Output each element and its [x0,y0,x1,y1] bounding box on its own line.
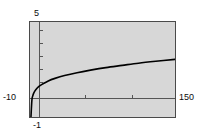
data-curve [31,59,175,117]
chart-figure: 5 -10 -1 150 [0,0,202,134]
y-axis-max-label: 5 [34,8,39,18]
x-axis-min-label: -1 [33,120,41,130]
plot-graphics [0,0,202,134]
x-axis-max-label: 150 [179,92,194,102]
y-axis-min-label: -10 [3,92,16,102]
